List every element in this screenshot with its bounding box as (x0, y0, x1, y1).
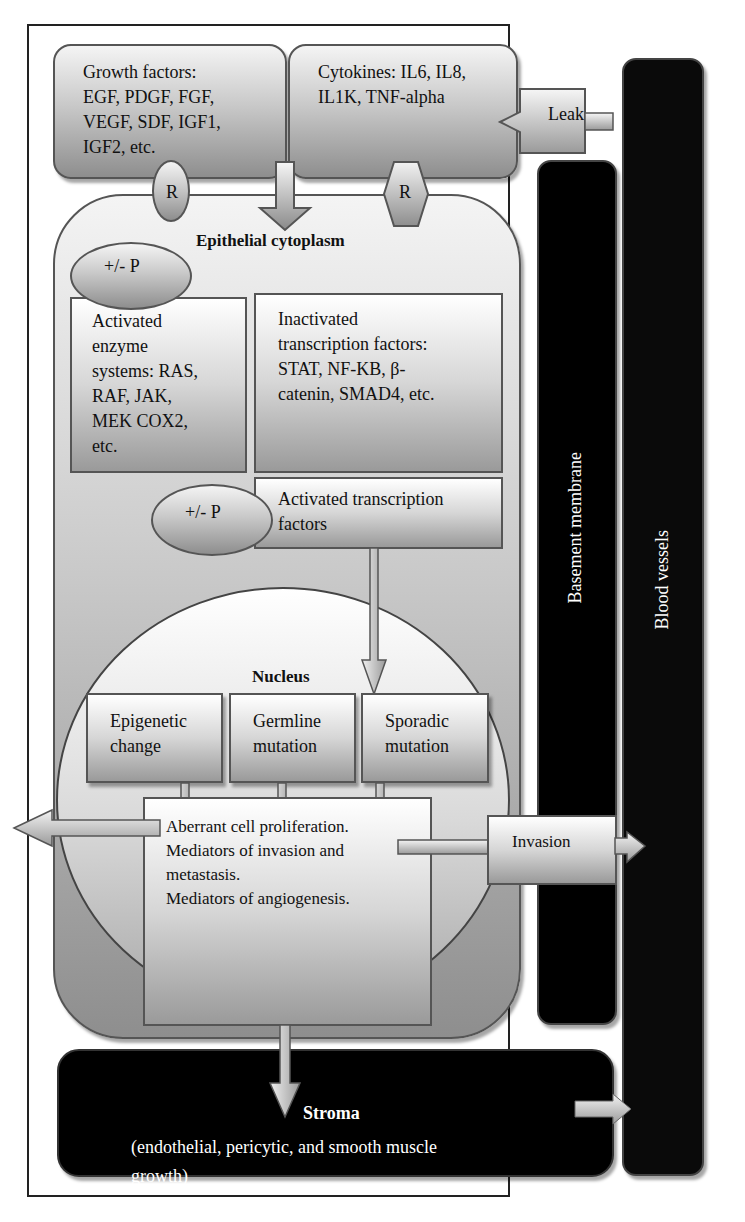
nucleus-box-line: Epigenetic (110, 709, 221, 734)
nucleus-box-line: change (110, 734, 221, 759)
growth-factors-line: Growth factors: (83, 60, 285, 85)
phosphorylation-label: +/- P (185, 500, 221, 525)
stroma-line: growth) (131, 1164, 188, 1189)
outcome-line: Aberrant cell proliferation. (166, 815, 430, 839)
cell-to-stroma-arrow-icon (268, 1025, 302, 1121)
activated-tf-line: factors (278, 512, 501, 537)
stroma-title: Stroma (303, 1101, 360, 1126)
sporadic-mutation-box: Sporadic mutation (361, 693, 489, 783)
leak-label: Leak (548, 102, 584, 127)
activated-enzymes-box: Activated enzyme systems: RAS, RAF, JAK,… (70, 297, 247, 473)
epigenetic-change-box: Epigenetic change (86, 693, 223, 783)
blood-vessels-column: Blood vessels (622, 58, 704, 1176)
nucleus-box-line: Sporadic (385, 709, 487, 734)
basement-membrane-column: Basement membrane (537, 160, 617, 1025)
receptor-label: R (399, 180, 411, 205)
growth-factors-box: Growth factors: EGF, PDGF, FGF, VEGF, SD… (53, 44, 287, 179)
phosphorylation-label: +/- P (104, 254, 140, 279)
inactivated-tf-box: Inactivated transcription factors: STAT,… (254, 293, 503, 473)
outcome-line: Mediators of angiogenesis. (166, 887, 430, 911)
nucleus-box-line: mutation (253, 734, 354, 759)
nucleus-box-line: mutation (385, 734, 487, 759)
invasion-label: Invasion (512, 830, 571, 854)
cytokines-line: Cytokines: IL6, IL8, (318, 60, 516, 85)
enzymes-line: MEK COX2, (92, 409, 245, 434)
leak-arrow-icon (500, 84, 670, 164)
blood-vessels-label: Blood vessels (652, 530, 673, 630)
basement-membrane-label: Basement membrane (565, 452, 586, 603)
outcome-box: Aberrant cell proliferation. Mediators o… (143, 797, 432, 1026)
enzymes-line: systems: RAS, (92, 359, 245, 384)
activated-tf-box: Activated transcription factors (254, 477, 503, 549)
germline-mutation-box: Germline mutation (229, 693, 356, 783)
enzymes-line: RAF, JAK, (92, 384, 245, 409)
growth-factors-line: EGF, PDGF, FGF, (83, 85, 285, 110)
enzymes-line: enzyme (92, 334, 245, 359)
inactivated-tf-line: STAT, NF-KB, β- (278, 357, 501, 382)
activated-tf-line: Activated transcription (278, 487, 501, 512)
stroma-line: (endothelial, pericytic, and smooth musc… (131, 1135, 437, 1160)
enzymes-line: Activated (92, 309, 245, 334)
growth-factors-line: IGF2, etc. (83, 135, 285, 160)
nucleus-box-line: Germline (253, 709, 354, 734)
outcome-line: metastasis. (166, 863, 430, 887)
inactivated-tf-line: transcription factors: (278, 332, 501, 357)
outcome-line: Mediators of invasion and (166, 839, 430, 863)
receptor-label: R (166, 180, 178, 205)
growth-factors-line: VEGF, SDF, IGF1, (83, 110, 285, 135)
nucleus-title: Nucleus (252, 664, 310, 689)
enzymes-line: etc. (92, 434, 245, 459)
inactivated-tf-line: Inactivated (278, 307, 501, 332)
invasion-arrow-head-icon (615, 832, 655, 872)
inactivated-tf-line: catenin, SMAD4, etc. (278, 382, 501, 407)
left-outgoing-arrow-icon (12, 808, 162, 848)
cytokines-box: Cytokines: IL6, IL8, IL1K, TNF-alpha (288, 44, 518, 179)
invasion-connector-icon (398, 836, 498, 860)
tf-to-nucleus-arrow-icon (359, 548, 389, 698)
cytokines-line: IL1K, TNF-alpha (318, 85, 516, 110)
stroma-to-vessels-arrow-icon (575, 1093, 635, 1127)
down-arrow-icon (258, 160, 318, 235)
